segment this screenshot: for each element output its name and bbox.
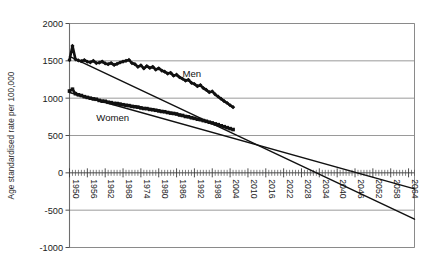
y-tick-label--500: -500 — [45, 206, 63, 216]
y-axis-title-group: Age standardised rate per 100,000 — [6, 71, 16, 199]
x-tick-label-1968: 1968 — [124, 179, 134, 198]
mortality-projection-chart: 2000150010005000-500-1000 19501956196219… — [0, 0, 431, 269]
chart-background — [0, 0, 431, 269]
y-tick-label-0: 0 — [58, 168, 63, 178]
x-tick-label-1974: 1974 — [142, 179, 152, 198]
x-tick-label-2028: 2028 — [303, 179, 313, 198]
x-tick-label-2004: 2004 — [231, 179, 241, 198]
x-tick-label-1950: 1950 — [71, 179, 81, 198]
data-point — [231, 128, 235, 132]
x-tick-label-1992: 1992 — [196, 179, 206, 198]
y-tick-label-1500: 1500 — [43, 56, 63, 66]
x-tick-label-1998: 1998 — [213, 179, 223, 198]
y-tick-label--1000: -1000 — [40, 243, 64, 253]
series-label-women: Women — [96, 112, 129, 123]
x-tick-label-2022: 2022 — [285, 179, 295, 198]
y-tick-label-1000: 1000 — [43, 94, 63, 104]
series-label-men: Men — [183, 68, 202, 79]
x-tick-label-1980: 1980 — [160, 179, 170, 198]
y-axis-title: Age standardised rate per 100,000 — [6, 71, 16, 199]
data-point — [71, 87, 75, 91]
y-tick-label-500: 500 — [48, 131, 63, 141]
x-tick-label-2034: 2034 — [321, 179, 331, 198]
x-tick-label-1986: 1986 — [178, 179, 188, 198]
x-tick-label-1962: 1962 — [106, 179, 116, 198]
y-tick-label-2000: 2000 — [43, 19, 63, 29]
x-tick-label-1956: 1956 — [89, 179, 99, 198]
chart-figure: 2000150010005000-500-1000 19501956196219… — [0, 0, 431, 269]
x-tick-label-2040: 2040 — [338, 179, 348, 198]
x-tick-label-2010: 2010 — [249, 179, 259, 198]
x-tick-label-2052: 2052 — [374, 179, 384, 198]
x-tick-label-2016: 2016 — [267, 179, 277, 198]
